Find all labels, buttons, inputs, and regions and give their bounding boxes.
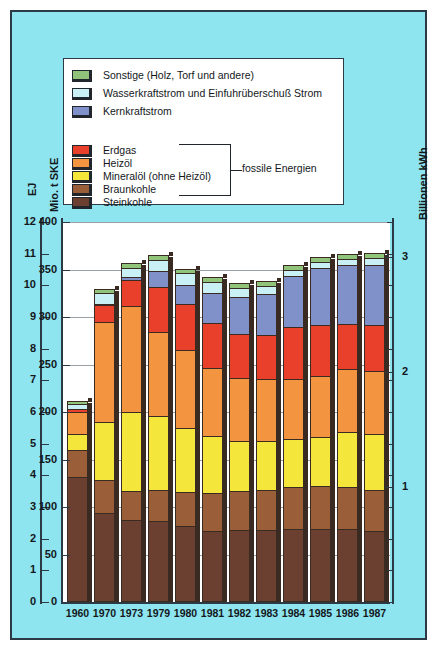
- bar-cap: [277, 278, 281, 282]
- bar-cap: [169, 252, 173, 256]
- legend-item-steinkohle: Steinkohle: [72, 195, 152, 210]
- bar-segment-mineralöl-ohne-heizöl-: [364, 434, 385, 490]
- axis-title-ej: EJ: [26, 183, 38, 196]
- bar-1973[interactable]: [121, 263, 142, 602]
- bar-shadow: [304, 267, 308, 602]
- axis-ske-tick-label: 400: [27, 216, 57, 227]
- bar-shadow: [88, 403, 92, 602]
- bar-shadow: [250, 285, 254, 602]
- bar-segment-kernkraftstrom: [148, 271, 169, 286]
- legend-swatch-sonstige: [72, 70, 92, 82]
- legend-label-heizoel: Heizöl: [103, 158, 132, 169]
- bar-segment-kernkraftstrom: [364, 265, 385, 325]
- bar-segment-erdgas: [283, 327, 304, 379]
- bar-segment-kernkraftstrom: [202, 293, 223, 322]
- bar-cap: [196, 266, 200, 270]
- legend-item-kernkraft: Kernkraftstrom: [72, 104, 172, 119]
- axis-kwh-minor-tick: [387, 317, 392, 318]
- axis-kwh-minor-tick: [387, 602, 392, 603]
- x-axis-label-1987: 1987: [358, 607, 392, 619]
- legend-label-braunkohle: Braunkohle: [103, 184, 156, 195]
- bar-segment-steinkohle: [229, 530, 250, 602]
- bar-segment-mineralöl-ohne-heizöl-: [175, 428, 196, 492]
- bar-segment-erdgas: [256, 335, 277, 379]
- axis-ske-tick: [63, 412, 70, 413]
- axis-kwh-tick-label: 1: [402, 481, 426, 492]
- bar-segment-braunkohle: [175, 492, 196, 526]
- bar-segment-mineralöl-ohne-heizöl-: [337, 432, 358, 487]
- bar-segment-kernkraftstrom: [283, 276, 304, 326]
- axis-kwh-line: [392, 218, 394, 604]
- axis-kwh-tick-label: 2: [402, 366, 426, 377]
- axis-ej-tick: [42, 444, 49, 445]
- axis-kwh-tick: [385, 372, 392, 373]
- bar-1985[interactable]: [310, 257, 331, 602]
- bar-segment-erdgas: [202, 323, 223, 369]
- axis-ske-tick: [63, 460, 70, 461]
- axis-kwh-tick: [385, 487, 392, 488]
- axis-ske-tick-label: 250: [27, 359, 57, 370]
- bar-segment-steinkohle: [121, 520, 142, 602]
- axis-kwh-minor-tick: [387, 222, 392, 223]
- axis-ej-tick: [42, 349, 49, 350]
- axis-ske-tick: [63, 317, 70, 318]
- bar-segment-kernkraftstrom: [310, 268, 331, 325]
- bar-segment-braunkohle: [148, 490, 169, 521]
- axis-title-ske: Mio. t SKE: [48, 158, 60, 212]
- axis-ej-tick-label: 1: [6, 564, 36, 575]
- axis-ej-tick: [42, 570, 49, 571]
- bar-segment-mineralöl-ohne-heizöl-: [121, 412, 142, 491]
- bar-segment-erdgas: [121, 280, 142, 306]
- bar-1970[interactable]: [94, 289, 115, 603]
- bar-segment-wasserkraftstrom-und-einfuhrüberschuß-strom: [256, 286, 277, 295]
- bar-segment-heizöl: [256, 379, 277, 441]
- bar-shadow: [277, 283, 281, 602]
- bar-segment-heizöl: [67, 412, 88, 434]
- bar-1983[interactable]: [256, 281, 277, 602]
- bar-segment-kernkraftstrom: [256, 294, 277, 335]
- axis-ske-tick: [63, 222, 70, 223]
- axis-ej-tick-label: 8: [6, 343, 36, 354]
- bar-segment-kernkraftstrom: [337, 265, 358, 324]
- bar-segment-steinkohle: [310, 529, 331, 602]
- bar-segment-erdgas: [94, 305, 115, 322]
- bar-1984[interactable]: [283, 265, 304, 602]
- bar-segment-wasserkraftstrom-und-einfuhrüberschuß-strom: [94, 293, 115, 303]
- legend-swatch-heizoel: [72, 158, 92, 170]
- axis-ske-tick-label: 300: [27, 311, 57, 322]
- axis-kwh-minor-tick: [387, 507, 392, 508]
- bar-1979[interactable]: [148, 255, 169, 602]
- chart-legend: Sonstige (Holz, Torf und andere) Wasserk…: [63, 58, 344, 205]
- bar-segment-heizöl: [310, 376, 331, 437]
- axis-kwh-minor-tick: [387, 475, 392, 476]
- bar-1981[interactable]: [202, 277, 223, 602]
- bar-1980[interactable]: [175, 269, 196, 602]
- bar-segment-heizöl: [148, 332, 169, 416]
- axis-ej-tick: [42, 254, 49, 255]
- bar-shadow: [223, 279, 227, 602]
- bar-cap: [304, 262, 308, 266]
- bar-1960[interactable]: [67, 401, 88, 602]
- axis-kwh-minor-tick: [387, 285, 392, 286]
- bar-shadow: [142, 265, 146, 602]
- bar-segment-steinkohle: [337, 529, 358, 602]
- bar-segment-heizöl: [364, 371, 385, 434]
- fossil-bracket-label: fossile Energien: [242, 162, 317, 174]
- bar-cap: [223, 274, 227, 278]
- axis-ske-tick: [63, 602, 70, 603]
- bar-1982[interactable]: [229, 283, 250, 602]
- axis-ske-tick-label: 50: [27, 549, 57, 560]
- bar-segment-braunkohle: [310, 486, 331, 529]
- bar-1986[interactable]: [337, 254, 358, 602]
- bar-segment-mineralöl-ohne-heizöl-: [67, 434, 88, 450]
- legend-item-sonstige: Sonstige (Holz, Torf und andere): [72, 68, 254, 83]
- bar-1987[interactable]: [364, 253, 385, 602]
- legend-label-erdgas: Erdgas: [103, 145, 136, 156]
- legend-swatch-braunkohle: [72, 184, 92, 196]
- bar-segment-steinkohle: [148, 521, 169, 602]
- bar-segment-mineralöl-ohne-heizöl-: [229, 441, 250, 491]
- axis-ej-tick-label: 10: [6, 279, 36, 290]
- axis-kwh-minor-tick: [387, 444, 392, 445]
- fossil-bracket-tick: [231, 170, 242, 171]
- axis-ske-tick-label: 150: [27, 454, 57, 465]
